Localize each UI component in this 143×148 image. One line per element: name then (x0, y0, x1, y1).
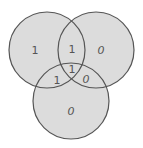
label-right-bottom: 0 (83, 73, 90, 86)
label-all-three: 1 (69, 63, 76, 76)
label-left-right: 1 (69, 43, 76, 56)
label-left-bottom: 1 (54, 74, 61, 87)
venn-diagram: 1 1 0 1 1 0 0 (0, 0, 143, 148)
label-bottom-only: 0 (68, 105, 75, 118)
venn-svg: 1 1 0 1 1 0 0 (0, 0, 143, 148)
label-left-only: 1 (32, 44, 39, 57)
label-right-only: 0 (98, 44, 105, 57)
